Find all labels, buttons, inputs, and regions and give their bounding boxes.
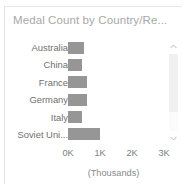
bar[interactable] [68, 76, 87, 88]
category-label: Italy [2, 110, 68, 125]
chevron-up-icon[interactable] [168, 41, 179, 52]
bar-rows-container: AustraliaChinaFranceGermanyItalySoviet U… [0, 40, 152, 145]
bar-track [68, 94, 152, 106]
category-label: China [2, 57, 68, 72]
bar-row[interactable]: Germany [0, 92, 152, 107]
chart-title: Medal Count by Country/Re... [13, 12, 178, 28]
x-axis-title: (Thousands) [56, 167, 171, 179]
category-label: Soviet Uni... [2, 127, 68, 142]
bar[interactable] [68, 128, 100, 140]
bar-row[interactable]: Australia [0, 40, 152, 55]
bar[interactable] [68, 111, 82, 123]
bar[interactable] [68, 59, 82, 71]
x-tick-label: 1K [88, 147, 112, 160]
category-label: Australia [2, 40, 68, 55]
bar-row[interactable]: Italy [0, 110, 152, 125]
x-tick-label: 3K [152, 147, 176, 160]
bar-track [68, 59, 152, 71]
scrollbar-track[interactable] [169, 54, 178, 131]
bar-track [68, 42, 152, 54]
bar-row[interactable]: Soviet Uni... [0, 127, 152, 142]
x-axis-line [68, 144, 168, 145]
medal-count-chart-panel: Medal Count by Country/Re... AustraliaCh… [0, 0, 185, 187]
bar[interactable] [68, 42, 84, 54]
vertical-scrollbar[interactable] [168, 41, 179, 144]
x-tick-label: 0K [56, 147, 80, 160]
plot-area: AustraliaChinaFranceGermanyItalySoviet U… [0, 40, 185, 145]
category-label: France [2, 75, 68, 90]
x-tick-label: 2K [120, 147, 144, 160]
category-label: Germany [2, 92, 68, 107]
bar-row[interactable]: China [0, 57, 152, 72]
bar[interactable] [68, 94, 87, 106]
chevron-down-icon[interactable] [168, 133, 179, 144]
category-label: United Kin... [2, 144, 68, 145]
scrollbar-thumb[interactable] [169, 54, 178, 112]
bar-track [68, 111, 152, 123]
bar-track [68, 76, 152, 88]
bar-row[interactable]: France [0, 75, 152, 90]
x-axis-ticks: 0K1K2K3K [0, 147, 185, 160]
bar-track [68, 128, 152, 140]
panel-top-border [4, 6, 182, 7]
